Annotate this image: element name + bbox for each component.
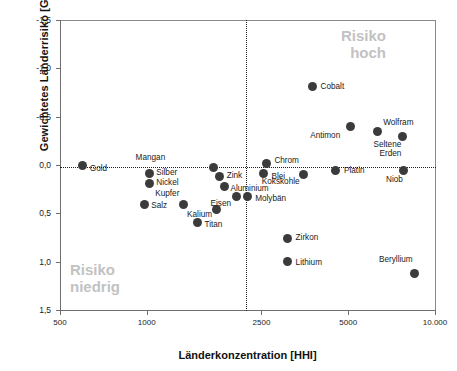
data-point-label: SelteneErden bbox=[374, 140, 402, 159]
y-tick-label: 0,0 bbox=[11, 160, 51, 170]
y-tick bbox=[56, 165, 61, 166]
annotation-risk-low: Risiko niedrig bbox=[70, 261, 120, 296]
y-tick-label: -0,5 bbox=[11, 112, 51, 122]
data-point-label: Titan bbox=[205, 220, 223, 229]
y-tick-label: 1,5 bbox=[11, 305, 51, 315]
annotation-risk-low-line1: Risiko bbox=[70, 261, 120, 278]
y-tick bbox=[56, 213, 61, 214]
x-tick-label: 2500 bbox=[236, 318, 286, 327]
data-point[interactable] bbox=[283, 234, 292, 243]
data-point-label: Eisen bbox=[211, 199, 231, 208]
data-point[interactable] bbox=[140, 200, 149, 209]
x-tick bbox=[60, 310, 61, 315]
data-point-label: Salz bbox=[151, 201, 167, 210]
y-tick bbox=[56, 262, 61, 263]
data-point[interactable] bbox=[331, 166, 340, 175]
reference-line-hhi-threshold bbox=[246, 20, 247, 311]
data-point-label: Nickel bbox=[156, 178, 178, 187]
annotation-risk-high-line2: hoch bbox=[341, 44, 386, 61]
data-point[interactable] bbox=[262, 159, 271, 168]
data-point-label: Lithium bbox=[296, 258, 322, 267]
data-point[interactable] bbox=[179, 200, 188, 209]
scatter-chart: Gewichtetes Länderrisiko [GLR] Länderkon… bbox=[0, 0, 457, 371]
y-tick-label: -1,0 bbox=[11, 63, 51, 73]
plot-frame-top bbox=[60, 20, 436, 21]
data-point-label: Kalium bbox=[187, 210, 212, 219]
data-point-label: Cobalt bbox=[321, 82, 345, 91]
data-point-label: Niob bbox=[386, 175, 403, 184]
data-point-label: Wolfram bbox=[383, 118, 413, 127]
data-point-label: Kokskohle bbox=[262, 177, 300, 186]
annotation-risk-low-line2: niedrig bbox=[70, 278, 120, 295]
data-point-label: Platin bbox=[344, 166, 364, 175]
data-point[interactable] bbox=[215, 172, 224, 181]
annotation-risk-high: Risiko hoch bbox=[341, 27, 386, 62]
y-tick bbox=[56, 68, 61, 69]
y-tick bbox=[56, 20, 61, 21]
x-tick bbox=[261, 310, 262, 315]
data-point[interactable] bbox=[232, 192, 241, 201]
data-point-label: Molybän bbox=[255, 194, 286, 203]
data-point-label: Silber bbox=[156, 168, 177, 177]
data-point[interactable] bbox=[78, 161, 87, 170]
data-point-label: Zink bbox=[227, 171, 242, 180]
x-tick bbox=[147, 310, 148, 315]
x-tick-label: 5000 bbox=[323, 318, 373, 327]
data-point[interactable] bbox=[220, 182, 229, 191]
x-axis-title: Länderkonzentration [HHI] bbox=[60, 349, 435, 361]
data-point[interactable] bbox=[145, 179, 154, 188]
data-point-label: Mangan bbox=[136, 153, 166, 162]
x-tick bbox=[435, 310, 436, 315]
y-tick bbox=[56, 117, 61, 118]
y-tick-label: 0,5 bbox=[11, 208, 51, 218]
data-point[interactable] bbox=[373, 127, 382, 136]
reference-line-risk-zero bbox=[60, 167, 436, 168]
x-tick-label: 500 bbox=[35, 318, 85, 327]
data-point[interactable] bbox=[299, 170, 308, 179]
data-point-label: Zirkon bbox=[296, 233, 319, 242]
y-tick-label: -1,5 bbox=[11, 15, 51, 25]
x-tick-label: 10.000 bbox=[410, 318, 457, 327]
data-point[interactable] bbox=[283, 257, 292, 266]
data-point[interactable] bbox=[145, 169, 154, 178]
data-point[interactable] bbox=[346, 122, 355, 131]
x-tick bbox=[348, 310, 349, 315]
data-point-label: Beryllium bbox=[379, 255, 413, 264]
data-point-label: Kupfer bbox=[155, 189, 179, 198]
data-point-label: Antimon bbox=[310, 131, 340, 140]
data-point[interactable] bbox=[410, 269, 419, 278]
annotation-risk-high-line1: Risiko bbox=[341, 27, 386, 44]
data-point[interactable] bbox=[209, 163, 218, 172]
y-tick-label: 1,0 bbox=[11, 257, 51, 267]
plot-frame-right bbox=[435, 20, 436, 311]
data-point-label: Chrom bbox=[274, 156, 299, 165]
x-axis-line bbox=[60, 310, 436, 311]
x-tick-label: 1000 bbox=[122, 318, 172, 327]
data-point-label: Gold bbox=[90, 164, 107, 173]
data-point[interactable] bbox=[308, 82, 317, 91]
data-point[interactable] bbox=[243, 192, 252, 201]
